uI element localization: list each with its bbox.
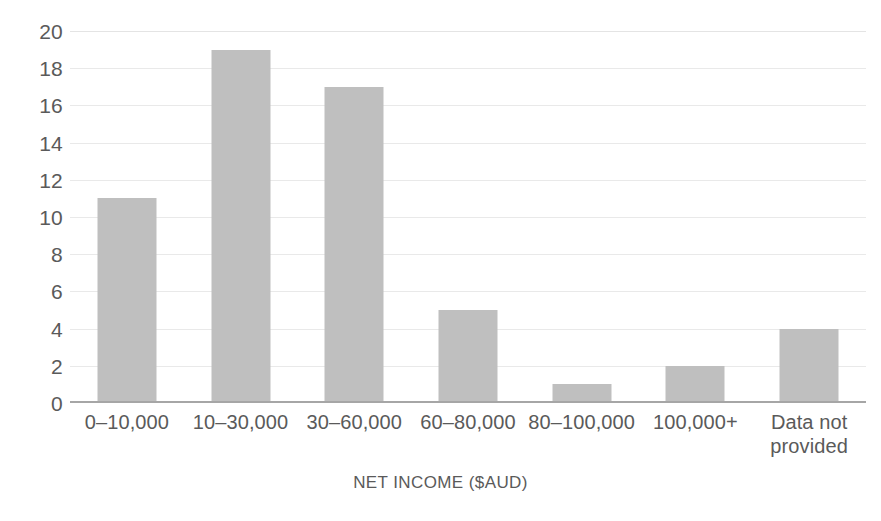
- y-tick-label: 4: [0, 318, 63, 339]
- bar-slot: [70, 31, 184, 403]
- bar-slot: [297, 31, 411, 403]
- x-tick-label: 80–100,000: [525, 410, 639, 434]
- x-tick-label: 100,000+: [639, 410, 753, 434]
- y-tick-label: 8: [0, 244, 63, 265]
- bar-slot: [752, 31, 866, 403]
- y-tick-label: 2: [0, 355, 63, 376]
- bar-slot: [525, 31, 639, 403]
- y-tick-label: 10: [0, 207, 63, 228]
- bar[interactable]: [438, 310, 497, 403]
- y-tick-label: 14: [0, 132, 63, 153]
- x-tick-label: 10–30,000: [184, 410, 298, 434]
- y-tick-label: 18: [0, 58, 63, 79]
- plot-area: [70, 31, 866, 403]
- bar-slot: [184, 31, 298, 403]
- bar[interactable]: [211, 50, 270, 403]
- x-tick-label: 60–80,000: [411, 410, 525, 434]
- y-tick-label: 20: [0, 21, 63, 42]
- bar[interactable]: [97, 198, 156, 403]
- y-tick-label: 16: [0, 95, 63, 116]
- bar[interactable]: [666, 366, 725, 403]
- x-axis-line: [70, 401, 866, 403]
- x-tick-label: Data not provided: [752, 410, 866, 459]
- x-axis-title: NET INCOME ($AUD): [0, 473, 881, 493]
- bar-chart-figure: 02468101214161820 0–10,00010–30,00030–60…: [0, 0, 881, 521]
- y-axis: 02468101214161820: [0, 31, 63, 403]
- y-tick-label: 12: [0, 169, 63, 190]
- bar-slot: [411, 31, 525, 403]
- bar[interactable]: [325, 87, 384, 403]
- x-axis: 0–10,00010–30,00030–60,00060–80,00080–10…: [70, 410, 866, 468]
- bar[interactable]: [780, 329, 839, 403]
- bars-group: [70, 31, 866, 403]
- y-tick-label: 6: [0, 281, 63, 302]
- x-tick-label: 30–60,000: [297, 410, 411, 434]
- bar-slot: [639, 31, 753, 403]
- x-tick-label: 0–10,000: [70, 410, 184, 434]
- y-tick-label: 0: [0, 393, 63, 414]
